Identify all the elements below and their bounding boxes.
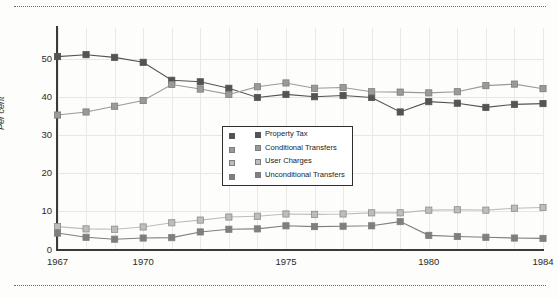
data-point (112, 236, 118, 242)
chart-legend: Property TaxConditional TransfersUser Ch… (222, 126, 353, 186)
data-point (54, 53, 60, 59)
data-point (340, 223, 346, 229)
data-point (311, 211, 317, 217)
data-point (311, 223, 317, 229)
data-point (397, 109, 403, 115)
data-point (197, 229, 203, 235)
data-point (169, 220, 175, 226)
data-point (426, 90, 432, 96)
data-point (83, 109, 89, 115)
legend-label-conditional-transfers: Conditional Transfers (265, 141, 337, 154)
data-point (397, 210, 403, 216)
legend-label-user-charges: User Charges (265, 154, 312, 167)
data-point (340, 211, 346, 217)
data-point (511, 81, 517, 87)
data-point (369, 89, 375, 95)
legend-marker-right-0 (255, 132, 261, 138)
data-point (226, 85, 232, 91)
data-point (311, 85, 317, 91)
data-point (140, 224, 146, 230)
data-point (369, 210, 375, 216)
data-point (254, 213, 260, 219)
data-point (483, 207, 489, 213)
data-point (311, 94, 317, 100)
data-point (454, 207, 460, 213)
legend-marker-right-3 (255, 172, 261, 178)
legend-marker-left-0 (229, 133, 235, 139)
data-point (54, 223, 60, 229)
chart-page: Per cent 01020304050 1967197019751980198… (0, 0, 558, 298)
data-point (511, 205, 517, 211)
data-point (83, 52, 89, 58)
data-point (397, 219, 403, 225)
legend-label-property-tax: Property Tax (265, 127, 308, 140)
data-point (340, 84, 346, 90)
data-point (254, 84, 260, 90)
data-point (540, 100, 546, 106)
data-point (197, 86, 203, 92)
series-user-charges (54, 204, 546, 232)
data-point (54, 112, 60, 118)
legend-marker-right-2 (255, 159, 261, 165)
legend-marker-left-3 (229, 174, 235, 180)
data-point (426, 232, 432, 238)
data-point (483, 234, 489, 240)
data-point (254, 94, 260, 100)
legend-marker-right-1 (255, 145, 261, 151)
data-point (511, 101, 517, 107)
data-point (226, 91, 232, 97)
series-conditional-transfers (54, 80, 546, 118)
data-point (254, 226, 260, 232)
data-point (140, 235, 146, 241)
legend-label-unconditional-transfers: Unconditional Transfers (265, 168, 345, 181)
data-point (226, 214, 232, 220)
data-point (426, 207, 432, 213)
data-point (340, 92, 346, 98)
data-point (226, 226, 232, 232)
series-line (58, 222, 544, 240)
data-point (283, 91, 289, 97)
series-property-tax (54, 52, 546, 115)
data-point (197, 217, 203, 223)
series-line (58, 83, 544, 115)
legend-marker-left-1 (229, 147, 235, 153)
data-point (197, 79, 203, 85)
data-point (397, 89, 403, 95)
data-point (169, 81, 175, 87)
data-point (140, 97, 146, 103)
data-point (283, 80, 289, 86)
data-point (83, 234, 89, 240)
data-point (540, 235, 546, 241)
data-point (54, 230, 60, 236)
data-point (112, 103, 118, 109)
data-point (540, 204, 546, 210)
data-point (369, 94, 375, 100)
data-point (454, 100, 460, 106)
data-point (483, 83, 489, 89)
data-point (454, 89, 460, 95)
data-point (112, 226, 118, 232)
data-point (511, 235, 517, 241)
series-unconditional-transfers (54, 219, 546, 243)
data-point (540, 86, 546, 92)
data-point (369, 223, 375, 229)
data-point (426, 99, 432, 105)
data-point (112, 54, 118, 60)
data-point (169, 235, 175, 241)
data-point (483, 104, 489, 110)
data-point (454, 233, 460, 239)
data-point (83, 226, 89, 232)
legend-marker-left-2 (229, 160, 235, 166)
data-point (283, 211, 289, 217)
data-point (140, 59, 146, 65)
data-point (283, 223, 289, 229)
